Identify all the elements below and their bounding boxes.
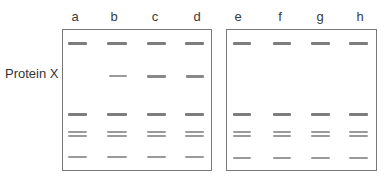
band-bottom-a: [68, 156, 87, 158]
band-doublet-lower-c: [147, 135, 166, 137]
band-top-c: [147, 42, 166, 45]
band-protein-x-b: [109, 75, 127, 77]
band-mid-g: [311, 113, 330, 116]
band-bottom-g: [311, 157, 330, 159]
band-bottom-f: [273, 157, 291, 159]
band-top-d: [185, 42, 204, 45]
band-bottom-d: [185, 156, 204, 158]
band-doublet-upper-c: [147, 131, 166, 133]
lane-label-h: h: [350, 9, 370, 24]
band-bottom-h: [349, 157, 368, 159]
gel-panel-right: [226, 29, 377, 171]
band-doublet-upper-f: [273, 131, 291, 133]
band-bottom-b: [107, 156, 127, 158]
lane-label-e: e: [228, 9, 248, 24]
band-doublet-upper-a: [68, 131, 87, 133]
lane-label-d: d: [187, 9, 207, 24]
band-doublet-upper-e: [233, 131, 251, 133]
band-bottom-e: [233, 157, 251, 159]
lane-label-g: g: [310, 9, 330, 24]
band-doublet-lower-h: [349, 135, 368, 137]
band-top-e: [233, 42, 251, 45]
band-top-b: [107, 42, 127, 45]
lane-label-c: c: [145, 9, 165, 24]
band-doublet-lower-g: [311, 135, 330, 137]
band-mid-a: [68, 113, 87, 116]
band-doublet-lower-b: [107, 135, 127, 137]
band-doublet-lower-a: [68, 135, 87, 137]
band-mid-b: [107, 113, 127, 116]
band-mid-f: [273, 113, 291, 116]
band-mid-e: [233, 113, 251, 116]
lane-label-f: f: [270, 9, 290, 24]
lane-label-a: a: [65, 9, 85, 24]
band-mid-c: [147, 113, 166, 116]
band-doublet-upper-b: [107, 131, 127, 133]
band-doublet-upper-g: [311, 131, 330, 133]
band-doublet-lower-e: [233, 135, 251, 137]
lane-label-b: b: [104, 9, 124, 24]
band-mid-d: [185, 113, 204, 116]
protein-x-label: Protein X: [5, 66, 58, 81]
band-protein-x-c: [147, 75, 166, 78]
band-top-g: [311, 42, 330, 45]
band-doublet-lower-d: [185, 135, 204, 137]
band-doublet-upper-d: [185, 131, 204, 133]
band-protein-x-d: [186, 75, 204, 78]
band-top-a: [68, 42, 87, 45]
band-mid-h: [349, 113, 368, 116]
band-top-h: [349, 42, 368, 45]
band-doublet-lower-f: [273, 135, 291, 137]
band-bottom-c: [147, 156, 166, 158]
band-doublet-upper-h: [349, 131, 368, 133]
band-top-f: [273, 42, 291, 45]
gel-panel-left: [62, 29, 212, 171]
